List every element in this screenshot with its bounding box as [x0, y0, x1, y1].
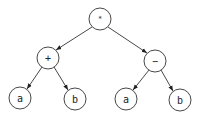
node-label: * — [98, 15, 102, 23]
node-minus: − — [144, 50, 166, 72]
edge-plus-b — [54, 67, 68, 90]
node-label: a — [17, 93, 23, 104]
edge-minus-a — [133, 70, 149, 90]
node-root-multiply: * — [89, 8, 111, 30]
node-a-left: a — [9, 87, 31, 109]
edge-plus-a — [27, 67, 42, 89]
node-a-right: a — [115, 88, 137, 110]
node-plus: + — [37, 47, 59, 69]
node-label: − — [152, 56, 158, 67]
edge-root-minus — [108, 27, 147, 53]
node-label: b — [177, 95, 183, 106]
node-label: a — [123, 94, 129, 105]
node-b-right: b — [169, 89, 191, 111]
node-label: b — [72, 94, 78, 105]
edge-root-plus — [56, 27, 92, 50]
node-b-left: b — [64, 88, 86, 110]
expression-tree-diagram: * + − a b a b — [0, 0, 199, 116]
edge-minus-b — [161, 70, 173, 91]
node-label: + — [45, 53, 51, 64]
